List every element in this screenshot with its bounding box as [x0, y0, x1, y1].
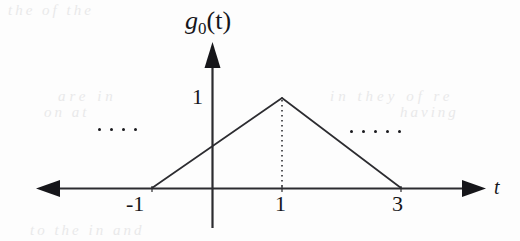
ellipsis-dot [122, 128, 125, 131]
ellipsis-dot [398, 130, 401, 133]
ellipsis-dot [374, 130, 377, 133]
ellipsis-dot [350, 130, 353, 133]
ellipsis-dot [134, 128, 137, 131]
ellipsis-dot [386, 130, 389, 133]
left-continuation-ellipsis [98, 128, 146, 131]
xtick-label-one: 1 [275, 191, 286, 217]
ellipsis-dot [362, 130, 365, 133]
xtick-label-three: 3 [392, 191, 403, 217]
function-subscript: 0 [198, 19, 207, 38]
xtick-label-minus-one: -1 [126, 191, 144, 217]
ellipsis-dot [110, 128, 113, 131]
vertical-axis-label: g0(t) [185, 6, 231, 39]
horizontal-axis-right-arrowhead [462, 180, 486, 197]
pulse-rising-edge [152, 98, 282, 188]
vertical-axis-arrowhead [205, 42, 221, 68]
pulse-falling-edge [282, 98, 401, 188]
ytick-label-one: 1 [192, 84, 203, 110]
function-name: g [185, 6, 198, 35]
right-continuation-ellipsis [350, 130, 410, 133]
horizontal-axis-left-arrowhead [36, 180, 60, 197]
plot-drawing [0, 0, 520, 241]
figure-canvas: the of the are in in they of re on at ha… [0, 0, 520, 241]
function-argument: (t) [207, 6, 232, 35]
horizontal-axis-label: t [494, 176, 500, 199]
ellipsis-dot [98, 128, 101, 131]
